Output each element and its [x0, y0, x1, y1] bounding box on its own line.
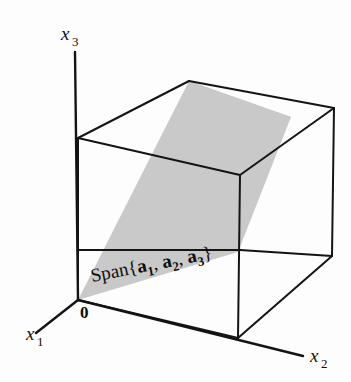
origin-label: 0: [80, 303, 89, 322]
axis-label-x3-subscript: 3: [72, 34, 79, 49]
figure-canvas: x 3 x 1 x 2 0 Span{a1, a2, a3}: [0, 0, 351, 382]
span-diagram-svg: x 3 x 1 x 2 0 Span{a1, a2, a3}: [0, 0, 351, 382]
axis-label-x3: x: [60, 23, 70, 44]
axis-label-x2: x: [309, 345, 319, 366]
axis-label-x2-subscript: 2: [321, 356, 328, 371]
axis-label-x1: x: [25, 323, 35, 344]
axis-label-x1-subscript: 1: [37, 334, 44, 349]
